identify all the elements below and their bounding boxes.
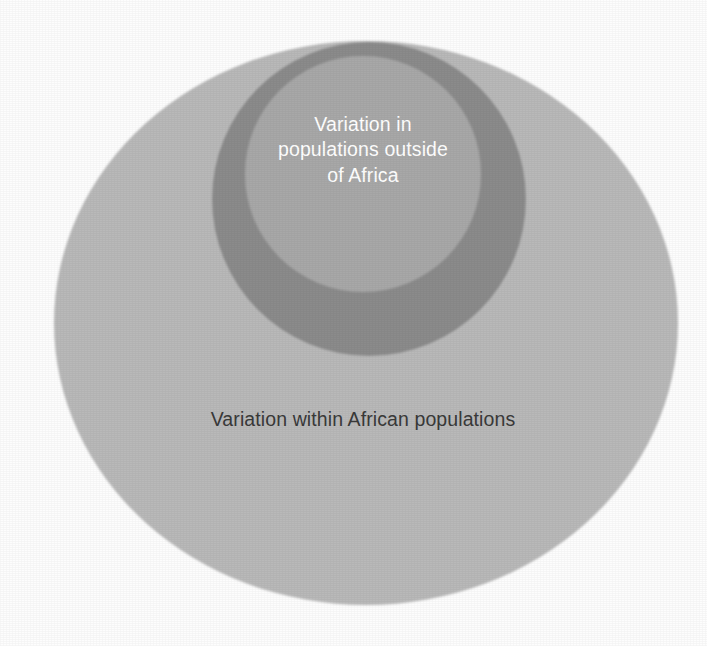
inner-circle-non-african-variation xyxy=(245,56,481,292)
venn-diagram-graphic xyxy=(0,0,707,646)
diagram-canvas: Variation in populations outside of Afri… xyxy=(0,0,707,646)
